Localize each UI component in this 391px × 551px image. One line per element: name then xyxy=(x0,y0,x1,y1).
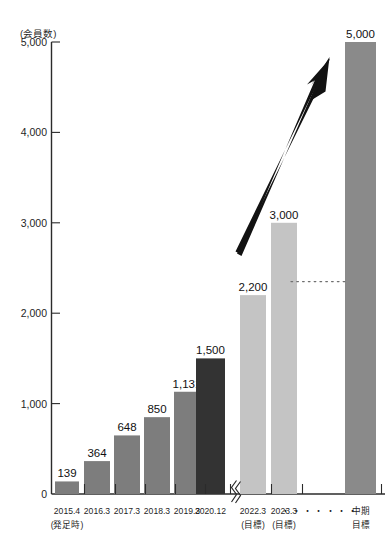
category-label: 2015.4 xyxy=(54,506,81,516)
bar-2017-3 xyxy=(114,435,140,494)
bar-2022-3 xyxy=(240,295,266,494)
category-sublabel: (目標) xyxy=(272,519,296,530)
bar-中期 xyxy=(345,42,376,494)
bar-value-label: 2,200 xyxy=(239,281,268,293)
category-label: 2017.3 xyxy=(114,506,141,516)
y-axis-tick-label: 4,000 xyxy=(21,126,47,138)
category-label: 2020.12 xyxy=(195,506,226,516)
member-growth-bar-chart: (会員数) 01,0002,0003,0004,0005,000 1393646… xyxy=(0,0,391,551)
category-sublabel: 目標 xyxy=(352,519,370,530)
axis-ellipsis-label: ・・・・・・・ xyxy=(281,506,359,516)
bar-2023-3 xyxy=(271,223,297,494)
bar-series: 1393646488501,1311,5002,2003,0005,000 xyxy=(55,28,376,494)
bar-value-label: 3,000 xyxy=(270,209,299,221)
bar-2020-12 xyxy=(196,358,225,494)
chart-container: (会員数) 01,0002,0003,0004,0005,000 1393646… xyxy=(0,0,391,551)
category-label: 2018.3 xyxy=(144,506,171,516)
y-axis-tick-label: 3,000 xyxy=(21,217,47,229)
category-label: 2022.3 xyxy=(240,506,267,516)
bar-value-label: 850 xyxy=(147,403,166,415)
category-label: 2016.3 xyxy=(84,506,111,516)
bar-value-label: 1,500 xyxy=(196,344,225,356)
y-axis-tick-label: 1,000 xyxy=(21,398,47,410)
y-axis-tick-label: 0 xyxy=(41,488,47,500)
bar-2015-4 xyxy=(55,481,79,494)
bar-value-label: 364 xyxy=(87,447,107,459)
category-sublabel: (発足時) xyxy=(51,519,84,530)
bar-2016-3 xyxy=(84,461,110,494)
bar-2018-3 xyxy=(144,417,170,494)
category-sublabel: (目標) xyxy=(241,519,265,530)
y-axis-tick-label: 5,000 xyxy=(21,36,47,48)
bar-value-label: 139 xyxy=(57,467,76,479)
y-axis-ticks: 01,0002,0003,0004,0005,000 xyxy=(21,36,60,500)
y-axis-tick-label: 2,000 xyxy=(21,307,47,319)
bar-value-label: 5,000 xyxy=(346,28,375,40)
axis-break-mark xyxy=(232,481,241,504)
bar-value-label: 648 xyxy=(117,421,136,433)
